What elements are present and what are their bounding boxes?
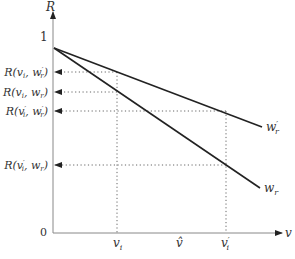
x-tick-v-hat: v̂ <box>176 236 183 250</box>
line-w-r <box>54 48 260 188</box>
y-tick-one: 1 <box>40 30 48 44</box>
diagram-canvas: R v 1 0 R(vi, w′r) R(vi, wr) R(v′i, w′r)… <box>0 0 295 259</box>
label-R-vi-prime-wr-prime: R(v′i, w′r) <box>5 105 48 119</box>
x-tick-v-i-prime: v′i <box>221 235 230 252</box>
label-R-vi-prime-wr: R(v′i, wr) <box>3 159 48 173</box>
origin-label: 0 <box>40 226 47 239</box>
y-axis-label: R <box>45 0 55 14</box>
line-label-w-r: wr <box>264 181 279 197</box>
x-axis-label: v <box>285 226 292 240</box>
line-label-w-r-prime: w′r <box>266 119 280 136</box>
x-tick-v-i: vi <box>113 236 123 252</box>
label-R-vi-wr: R(vi, wr) <box>2 86 48 100</box>
line-w-r-prime <box>54 48 262 127</box>
label-R-vi-wr-prime: R(vi, w′r) <box>3 66 48 80</box>
